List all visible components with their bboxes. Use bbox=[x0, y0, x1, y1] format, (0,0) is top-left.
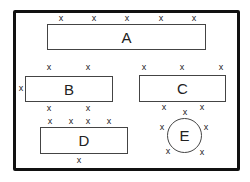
mark-d: x bbox=[69, 117, 74, 126]
mark-e: x bbox=[200, 148, 205, 157]
mark-d: x bbox=[107, 117, 112, 126]
mark-a: x bbox=[159, 14, 164, 23]
mark-a: x bbox=[125, 14, 130, 23]
box-d: D bbox=[40, 127, 128, 154]
box-b: B bbox=[25, 76, 113, 102]
mark-c: x bbox=[200, 103, 205, 112]
mark-e: x bbox=[166, 147, 171, 156]
mark-c: x bbox=[183, 108, 188, 117]
mark-c: x bbox=[162, 103, 167, 112]
mark-b: x bbox=[19, 84, 24, 93]
mark-b: x bbox=[86, 63, 91, 72]
mark-e: x bbox=[204, 123, 209, 132]
mark-d: x bbox=[77, 156, 82, 165]
circle-e-label: E bbox=[179, 127, 189, 144]
mark-c: x bbox=[142, 63, 147, 72]
box-c-label: C bbox=[177, 80, 188, 97]
mark-b: x bbox=[47, 63, 52, 72]
mark-c: x bbox=[219, 63, 224, 72]
mark-a: x bbox=[192, 14, 197, 23]
circle-e: E bbox=[167, 118, 202, 153]
mark-c: x bbox=[180, 63, 185, 72]
box-c: C bbox=[139, 75, 226, 102]
mark-d: x bbox=[86, 117, 91, 126]
box-b-label: B bbox=[64, 81, 74, 98]
mark-a: x bbox=[59, 14, 64, 23]
box-a: A bbox=[47, 24, 206, 50]
mark-a: x bbox=[92, 14, 97, 23]
mark-b: x bbox=[47, 104, 52, 113]
box-a-label: A bbox=[121, 29, 131, 46]
box-d-label: D bbox=[79, 132, 90, 149]
mark-e: x bbox=[160, 123, 165, 132]
mark-d: x bbox=[48, 117, 53, 126]
mark-b: x bbox=[86, 104, 91, 113]
